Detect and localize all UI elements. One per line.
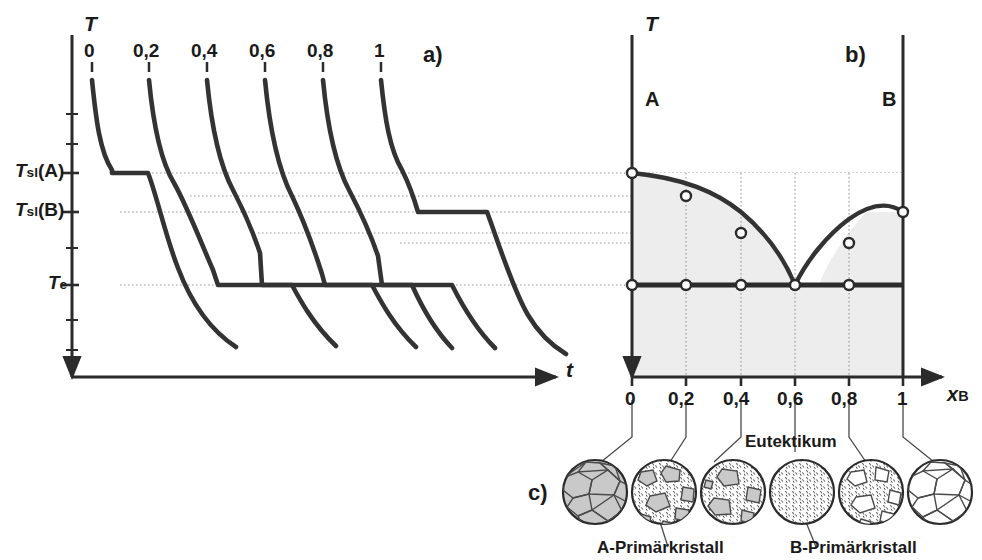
panel-b-label: b)	[845, 42, 866, 68]
panel-a-y-axis-label: T	[84, 12, 97, 36]
x-tick-label-08: 0,8	[831, 388, 857, 410]
panel-a-label: a)	[423, 42, 443, 68]
x-tick-label-02: 0,2	[668, 388, 694, 410]
curve-label-1: 1	[374, 40, 385, 62]
marker-eutectic-0	[627, 280, 637, 290]
curve-label-02: 0,2	[133, 40, 159, 62]
microstructure-circle-2	[632, 460, 696, 530]
microstructure-circle-3	[701, 460, 765, 524]
marker-eutectic-02	[681, 280, 691, 290]
marker-liquidus-04	[736, 228, 746, 238]
b-primary-crystal-label: B-Primärkristall	[790, 538, 917, 558]
marker-eutectic-04	[736, 280, 746, 290]
marker-liquidus-02	[681, 191, 691, 201]
panel-a	[62, 35, 566, 377]
a-primary-crystal-label: A-Primärkristall	[597, 538, 724, 558]
curve-label-06: 0,6	[249, 40, 275, 62]
marker-eutectic-08	[844, 280, 854, 290]
microstructure-circle-1	[563, 460, 629, 528]
panel-a-curve-ticks	[92, 62, 381, 72]
x-tick-label-04: 0,4	[723, 388, 749, 410]
x-tick-label-0: 0	[625, 388, 636, 410]
panel-c	[563, 400, 974, 547]
marker-liquidus-1	[898, 207, 908, 217]
curve-label-08: 0,8	[307, 40, 333, 62]
y-tick-label-te: Te	[48, 272, 67, 294]
curve-label-0: 0	[84, 40, 95, 62]
panel-b-x-axis-label: xB	[947, 383, 969, 406]
microstructure-circle-4	[770, 460, 834, 524]
figure-canvas	[0, 0, 982, 560]
curve-label-04: 0,4	[191, 40, 217, 62]
component-label-a: A	[645, 88, 659, 111]
x-tick-label-06: 0,6	[777, 388, 803, 410]
cooling-curve-x1	[381, 80, 566, 354]
panel-c-label: c)	[528, 480, 548, 506]
x-tick-label-1: 1	[897, 388, 908, 410]
microstructure-circle-5	[839, 460, 903, 530]
y-tick-label-tsl-b: Tsl(B)	[15, 199, 64, 221]
component-label-b: B	[882, 88, 896, 111]
marker-liquidus-0	[627, 168, 637, 178]
y-tick-label-tsl-a: Tsl(A)	[15, 160, 64, 182]
eutectic-label: Eutektikum	[745, 432, 837, 452]
microstructure-circle-6	[908, 460, 974, 528]
marker-eutectic-point	[790, 280, 800, 290]
cooling-curves	[92, 80, 566, 354]
marker-liquidus-08	[844, 238, 854, 248]
panel-a-x-axis-label: t	[566, 358, 573, 382]
panel-b-y-axis-label: T	[645, 12, 658, 36]
figure-root: T t 0 0,2 0,4 0,6 0,8 1 Tsl(A) Tsl(B) Te…	[0, 0, 982, 560]
